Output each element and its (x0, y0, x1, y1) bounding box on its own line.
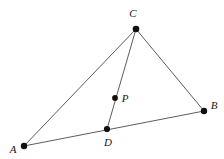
edge-group (24, 29, 204, 146)
edge-c-b (136, 29, 204, 111)
point-label-a: A (9, 143, 17, 155)
point-label-d: D (103, 136, 112, 148)
vertex-dot-b (201, 108, 207, 114)
point-label-c: C (129, 7, 137, 19)
vertex-dot-a (21, 143, 27, 149)
vertex-dot-c (133, 26, 140, 33)
geometry-figure: A B C D P (0, 0, 224, 159)
vertex-dot-d (104, 126, 110, 132)
vertex-group (21, 26, 207, 150)
point-label-p: P (121, 92, 129, 104)
vertex-dot-p (112, 95, 118, 101)
point-label-b: B (211, 99, 218, 111)
geometry-canvas: A B C D P (0, 0, 224, 159)
edge-a-b (24, 111, 204, 146)
label-group: A B C D P (9, 7, 218, 155)
